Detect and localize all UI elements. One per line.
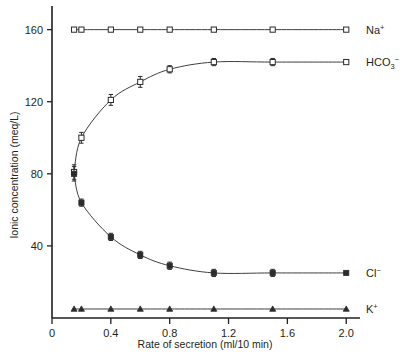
data-point-marker: [79, 135, 84, 140]
x-axis-tick-label: 1.6: [280, 327, 295, 339]
chart-background: [0, 0, 414, 354]
ionic-concentration-chart: 4080120160 00.40.81.21.62.0 Na+HCO3−Cl−K…: [0, 0, 414, 354]
data-point-marker: [270, 27, 275, 32]
data-point-marker: [138, 79, 143, 84]
data-point-marker: [79, 200, 84, 205]
y-axis-tick-label: 160: [25, 24, 43, 36]
data-point-marker: [211, 270, 216, 275]
y-axis-tick-label: 40: [31, 240, 43, 252]
series-end-marker: [344, 270, 349, 275]
data-point-marker: [79, 27, 84, 32]
series-end-marker: [344, 59, 349, 64]
x-axis-tick-label: 0: [49, 327, 55, 339]
y-axis-title: Ionic concentration (meq/L): [8, 111, 20, 238]
series-label-superscript: −: [395, 55, 400, 64]
x-axis-tick-label: 2.0: [339, 327, 354, 339]
x-axis-title: Rate of secretion (ml/10 min): [138, 338, 273, 350]
y-axis-tick-label: 80: [31, 168, 43, 180]
chart-figure: 4080120160 00.40.81.21.62.0 Na+HCO3−Cl−K…: [0, 0, 414, 354]
x-axis-tick-label: 0.4: [103, 327, 118, 339]
series-label-text: Cl: [366, 267, 376, 279]
data-point-marker: [71, 27, 76, 32]
data-point-marker: [167, 263, 172, 268]
data-point-marker: [108, 97, 113, 102]
series-label-text: HCO: [366, 56, 391, 68]
series-label-superscript: −: [376, 266, 381, 275]
data-point-marker: [211, 27, 216, 32]
data-point-marker: [71, 171, 76, 176]
series-label-superscript: +: [380, 23, 385, 32]
series-label-superscript: +: [373, 302, 378, 311]
data-point-marker: [108, 234, 113, 239]
data-point-marker: [167, 27, 172, 32]
data-point-marker: [138, 27, 143, 32]
data-point-marker: [138, 252, 143, 257]
series-end-marker: [344, 27, 349, 32]
data-point-marker: [108, 27, 113, 32]
data-point-marker: [270, 270, 275, 275]
data-point-marker: [211, 59, 216, 64]
data-point-marker: [270, 59, 275, 64]
series-label-text: Na: [366, 24, 381, 36]
y-axis-tick-label: 120: [25, 96, 43, 108]
data-point-marker: [167, 67, 172, 72]
